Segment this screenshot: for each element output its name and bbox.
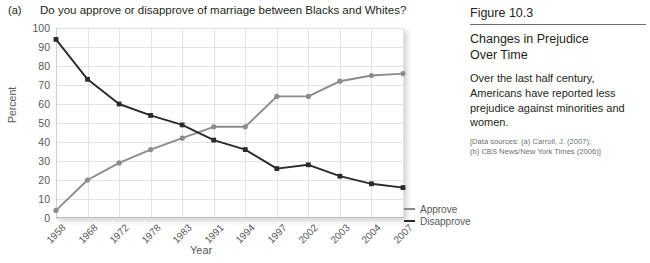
data-point	[274, 166, 279, 171]
chart-panel: (a) Do you approve or disapprove of marr…	[0, 0, 462, 263]
data-point	[211, 138, 216, 143]
figure-source-line1: [Data sources: (a) Carroll, J. (2007);	[470, 137, 646, 147]
y-tick-label: 30	[38, 155, 50, 167]
figure-title-line1: Changes in Prejudice	[470, 32, 589, 46]
data-point	[369, 181, 374, 186]
y-tick-label: 0	[44, 212, 50, 224]
data-point	[54, 37, 59, 42]
figure-caption-panel: Figure 10.3 Changes in Prejudice Over Ti…	[470, 6, 646, 157]
series-line-approve	[56, 74, 403, 211]
figure-title: Changes in Prejudice Over Time	[470, 32, 646, 63]
y-tick-label: 70	[38, 79, 50, 91]
panel-letter: (a)	[8, 4, 21, 16]
legend-item-disapprove[interactable]: Disapprove	[404, 215, 471, 227]
data-point	[243, 147, 248, 152]
data-point	[148, 147, 153, 152]
chart-question-title: Do you approve or disapprove of marriage…	[40, 4, 406, 16]
data-point	[243, 124, 248, 129]
y-tick-label: 100	[32, 22, 50, 34]
data-point	[116, 160, 121, 165]
data-point	[401, 185, 406, 190]
y-axis-label: Percent	[6, 87, 18, 123]
chart-area: Percent 0102030405060708090100 195819681…	[0, 18, 462, 263]
data-point	[306, 94, 311, 99]
data-point	[337, 79, 342, 84]
legend-item-approve[interactable]: Approve	[404, 203, 471, 215]
y-tick-label: 40	[38, 136, 50, 148]
legend-label: Disapprove	[420, 216, 471, 227]
data-point	[211, 124, 216, 129]
y-tick-label: 50	[38, 117, 50, 129]
data-point	[180, 136, 185, 141]
data-point	[400, 71, 405, 76]
data-point	[306, 162, 311, 167]
figure-data-sources: [Data sources: (a) Carroll, J. (2007); (…	[470, 137, 646, 158]
y-tick-label: 60	[38, 98, 50, 110]
data-point	[53, 208, 58, 213]
y-tick-label: 80	[38, 60, 50, 72]
x-axis-label: Year	[190, 244, 212, 256]
series-line-disapprove	[56, 39, 403, 187]
legend-swatch-icon	[404, 220, 415, 222]
figure-page: (a) Do you approve or disapprove of marr…	[0, 0, 650, 263]
data-point	[274, 94, 279, 99]
chart-legend: ApproveDisapprove	[404, 203, 471, 227]
y-tick-label: 10	[38, 193, 50, 205]
data-point	[85, 177, 90, 182]
plot-region: 0102030405060708090100 19581968197219781…	[56, 28, 404, 218]
data-point	[148, 113, 153, 118]
figure-divider	[470, 24, 646, 25]
gridline-h	[56, 218, 404, 219]
figure-number: Figure 10.3	[470, 6, 646, 24]
figure-body-text: Over the last half century, Americans ha…	[470, 71, 646, 130]
y-tick-label: 20	[38, 174, 50, 186]
y-tick-label: 90	[38, 41, 50, 53]
figure-source-line2: (b) CBS News/New York Times (2006)]	[470, 147, 646, 157]
data-point	[180, 123, 185, 128]
data-point	[369, 73, 374, 78]
legend-swatch-icon	[404, 208, 415, 210]
legend-label: Approve	[420, 204, 457, 215]
series-lines	[56, 28, 404, 218]
data-point	[338, 174, 343, 179]
data-point	[117, 102, 122, 107]
data-point	[85, 77, 90, 82]
figure-title-line2: Over Time	[470, 48, 528, 62]
